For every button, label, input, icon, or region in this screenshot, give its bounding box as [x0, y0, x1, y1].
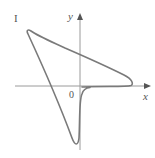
x-axis-label: x: [142, 90, 148, 102]
graph-figure: I y x 0: [0, 0, 155, 158]
y-axis-arrow-icon: [77, 13, 83, 20]
x-axis-arrow-icon: [144, 83, 151, 89]
panel-label: I: [14, 12, 18, 24]
y-axis-label: y: [67, 10, 73, 22]
origin-label: 0: [69, 89, 74, 100]
